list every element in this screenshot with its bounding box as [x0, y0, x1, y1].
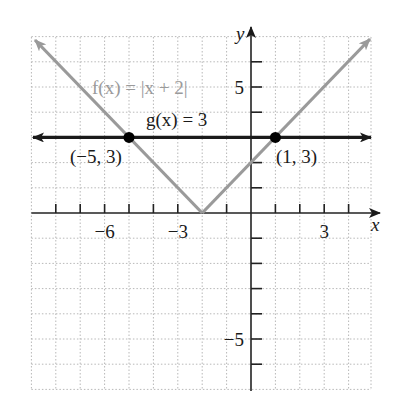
y-tick-label-5: 5	[235, 77, 245, 98]
x-axis-label: x	[370, 214, 380, 235]
g-function-label: g(x) = 3	[146, 109, 207, 131]
x-tick-label-3: 3	[319, 221, 329, 242]
intersection-point-right	[270, 132, 281, 143]
intersection-point-left	[124, 132, 135, 143]
y-axis-label: y	[234, 23, 245, 44]
f-function-label: f(x) = |x + 2|	[92, 77, 188, 99]
x-tick-label-neg3: −3	[168, 221, 188, 242]
point-label-left: (−5, 3)	[70, 146, 122, 168]
x-tick-label-neg6: −6	[94, 221, 114, 242]
graph-figure: x y −6 −3 3 5 −5 f(x) = |x + 2| g(x) = 3…	[0, 0, 397, 409]
y-tick-label-neg5: −5	[224, 329, 244, 350]
point-label-right: (1, 3)	[276, 146, 317, 168]
